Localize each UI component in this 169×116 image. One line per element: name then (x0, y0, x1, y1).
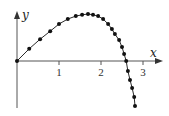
x-axis-label: x (150, 46, 157, 60)
data-point (126, 69, 130, 73)
data-point (106, 22, 110, 26)
data-point (110, 27, 114, 31)
chart: x y 123 (0, 0, 169, 116)
data-point (122, 52, 126, 56)
data-point (57, 22, 61, 26)
data-point (101, 17, 105, 21)
data-point (74, 14, 78, 18)
data-point (120, 45, 124, 49)
x-tick-label: 2 (98, 66, 104, 78)
y-axis-arrow-icon (14, 11, 20, 19)
x-tick-label: 3 (140, 66, 146, 78)
data-point (124, 59, 128, 63)
data-point (128, 78, 132, 82)
data-point (91, 13, 95, 17)
y-axis-label: y (21, 8, 29, 22)
data-point (130, 86, 134, 90)
data-point (80, 13, 84, 17)
axes: x y (14, 8, 163, 108)
data-point (27, 47, 31, 51)
data-point (96, 14, 100, 18)
series-curve (15, 12, 137, 108)
data-point (15, 59, 19, 63)
data-point (66, 17, 70, 21)
x-tick-label: 1 (56, 66, 62, 78)
data-point (113, 32, 117, 36)
x-ticks: 123 (56, 61, 146, 78)
data-point (132, 95, 136, 99)
data-point (117, 38, 121, 42)
data-point (38, 37, 42, 41)
series-line (17, 14, 135, 106)
data-point (133, 104, 137, 108)
data-point (86, 12, 90, 16)
data-point (48, 29, 52, 33)
